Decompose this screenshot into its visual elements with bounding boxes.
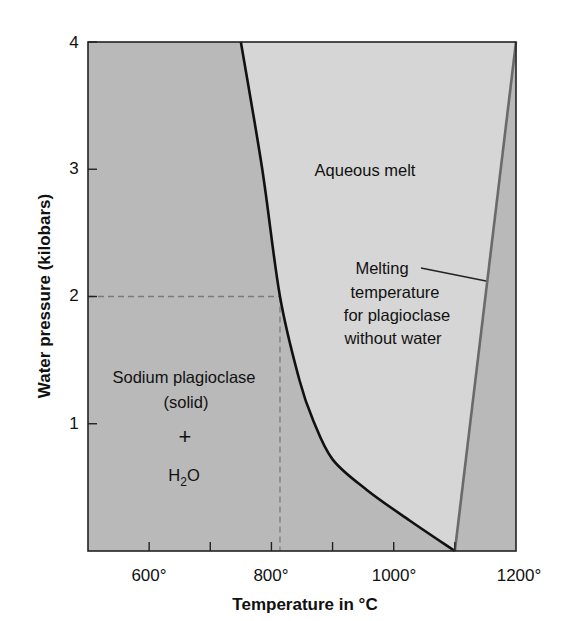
solid-label-line2: (solid): [164, 393, 209, 411]
aqueous-melt-label: Aqueous melt: [315, 161, 416, 179]
y-axis-title: Water pressure (kilobars): [35, 194, 54, 398]
melting-label-line4: without water: [343, 329, 442, 347]
x-axis-title: Temperature in °C: [232, 595, 377, 614]
x-tick-800: 800°: [253, 566, 288, 585]
melting-label-line1: Melting: [355, 259, 408, 277]
h2o-o: O: [187, 466, 200, 484]
phase-diagram: 600° 800° 1000° 1200° 1 2 3 4 Temperatur…: [0, 0, 561, 621]
y-tick-4: 4: [69, 33, 78, 52]
solid-label-line1: Sodium plagioclase: [112, 368, 255, 386]
melting-label-line3: for plagioclase: [344, 306, 450, 324]
plus-sign: +: [179, 424, 192, 449]
y-tick-3: 3: [69, 159, 78, 178]
y-tick-1: 1: [69, 414, 78, 433]
x-tick-600: 600°: [131, 566, 166, 585]
h2o-h: H: [168, 466, 180, 484]
melting-label-line2: temperature: [351, 283, 440, 301]
x-tick-1200: 1200°: [497, 566, 542, 585]
y-tick-2: 2: [69, 286, 78, 305]
x-tick-1000: 1000°: [372, 566, 417, 585]
